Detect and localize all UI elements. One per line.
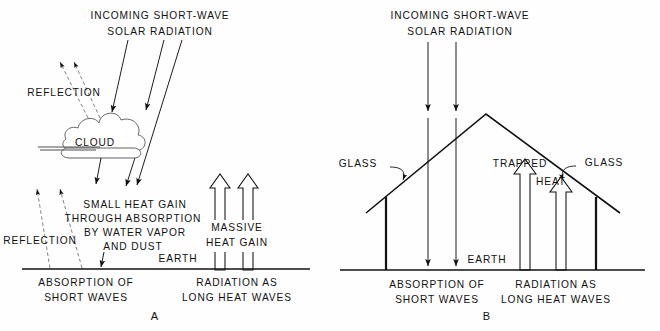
panel-b-absorption-line1: ABSORPTION OF bbox=[389, 279, 484, 290]
panel-a-absorption-line1: ABSORPTION OF bbox=[38, 277, 133, 288]
panel-b-radiation-line1: RADIATION AS bbox=[515, 279, 596, 290]
small-heat-gain-line3: BY WATER VAPOR bbox=[84, 227, 186, 238]
panel-a-heading-line2: SOLAR RADIATION bbox=[107, 26, 213, 37]
panel-b-heat-label: HEAT bbox=[536, 176, 566, 187]
panel-b-absorption-line2: SHORT WAVES bbox=[395, 294, 479, 305]
panel-b-letter: B bbox=[483, 310, 491, 322]
panel-a-reflection-lower-label: REFLECTION bbox=[3, 235, 77, 246]
panel-a-radiation-line1: RADIATION AS bbox=[196, 277, 277, 288]
massive-heat-gain-line1: MASSIVE bbox=[211, 222, 263, 233]
panel-a-earth-label: EARTH bbox=[159, 253, 198, 264]
panel-b-glass-left-label: GLASS bbox=[339, 158, 377, 169]
panel-b-trapped-label: TRAPPED bbox=[493, 158, 547, 169]
panel-b-glass-right-label: GLASS bbox=[585, 157, 623, 168]
panel-b-heading-line2: SOLAR RADIATION bbox=[407, 26, 513, 37]
small-heat-gain-line1: SMALL HEAT GAIN bbox=[83, 199, 186, 210]
panel-b-earth-label: EARTH bbox=[468, 254, 507, 265]
panel-a-reflection-upper-label: REFLECTION bbox=[27, 87, 101, 98]
massive-heat-gain-line2: HEAT GAIN bbox=[206, 237, 268, 248]
cloud-label: CLOUD bbox=[75, 137, 115, 148]
panel-a-radiation-line2: LONG HEAT WAVES bbox=[182, 292, 292, 303]
panel-a-heading-line1: INCOMING SHORT-WAVE bbox=[90, 10, 229, 21]
greenhouse-effect-diagram: INCOMING SHORT-WAVE SOLAR RADIATION REFL… bbox=[0, 0, 660, 331]
small-heat-gain-line2: THROUGH ABSORPTION bbox=[65, 213, 202, 224]
panel-b-heading-line1: INCOMING SHORT-WAVE bbox=[390, 10, 529, 21]
panel-b-radiation-line2: LONG HEAT WAVES bbox=[501, 294, 611, 305]
small-heat-gain-line4: AND DUST bbox=[103, 241, 162, 252]
panel-a-letter: A bbox=[151, 310, 159, 322]
panel-a-absorption-line2: SHORT WAVES bbox=[44, 292, 128, 303]
